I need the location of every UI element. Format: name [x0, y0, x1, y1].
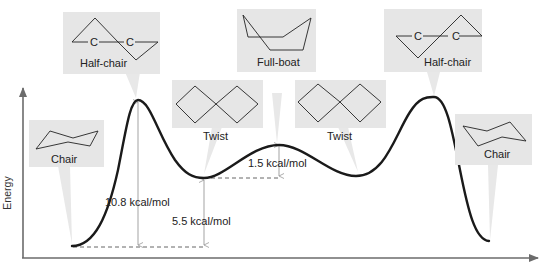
gap-label-5-5: 5.5 kcal/mol	[172, 215, 231, 227]
y-axis-label: Energy	[1, 176, 13, 210]
atom-label: C	[126, 36, 134, 48]
callout-chair-right: Chair	[455, 114, 532, 165]
callout-chair-left: Chair	[29, 120, 104, 167]
callout-twist-right: Twist	[295, 80, 386, 142]
atom-label: C	[414, 30, 422, 42]
atom-label: C	[90, 36, 98, 48]
callout-label: Full-boat	[257, 56, 300, 68]
callout-label: Chair	[484, 148, 511, 160]
energy-curve	[72, 97, 489, 246]
axes: Energy	[1, 88, 538, 258]
guide-lines	[73, 178, 279, 247]
callout-label: Twist	[327, 130, 352, 142]
callout-label: Chair	[51, 153, 78, 165]
callout-full-boat: Full-boat	[237, 9, 316, 72]
gap-label-10-8: 10.8 kcal/mol	[105, 196, 170, 208]
callout-label: Twist	[203, 130, 228, 142]
callout-half-chair-right: C C Half-chair	[384, 9, 482, 72]
energy-diagram: Energy 10.8 kcal/mol 5.5 kcal/mol 1.5 kc…	[0, 0, 546, 263]
gap-label-1-5: 1.5 kcal/mol	[248, 157, 307, 169]
callout-label: Half-chair	[80, 57, 127, 69]
callout-label: Half-chair	[424, 56, 471, 68]
callout-half-chair-left: C C Half-chair	[63, 12, 160, 74]
atom-label: C	[452, 30, 460, 42]
callout-twist-left: Twist	[172, 80, 263, 142]
